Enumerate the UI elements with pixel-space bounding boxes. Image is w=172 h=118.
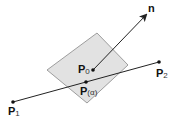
line-plane-intersection-diagram: n P0 P(α) P1 P2 xyxy=(0,0,172,118)
p2-label: P2 xyxy=(156,67,168,80)
point-p1 xyxy=(11,100,15,104)
normal-label: n xyxy=(148,2,155,14)
point-p0 xyxy=(91,68,95,72)
point-p2 xyxy=(157,60,161,64)
p1-label: P1 xyxy=(8,105,20,118)
point-palpha xyxy=(84,80,88,84)
